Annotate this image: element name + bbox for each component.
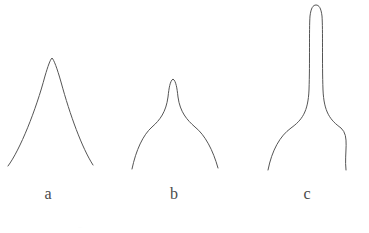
panel-label-b: b <box>159 186 189 202</box>
panel-label-c: c <box>292 186 322 202</box>
figure-container: a b c ... <box>0 0 369 233</box>
caption-remnant: ... <box>78 224 118 229</box>
panel-label-a: a <box>33 186 63 202</box>
